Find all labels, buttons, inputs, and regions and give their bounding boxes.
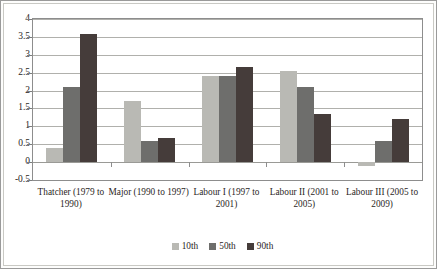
legend-label: 10th: [182, 242, 199, 251]
y-axis-tickmark: [27, 37, 32, 38]
legend-label: 50th: [219, 242, 236, 251]
x-axis-category-label: Labour II (2001 to 2005): [261, 187, 347, 210]
chart-figure: 43.532.521.510.50-0.5 Thatcher (1979 to …: [0, 0, 437, 269]
y-axis-tickmark: [27, 91, 32, 92]
legend-item[interactable]: 90th: [247, 242, 274, 251]
legend-swatch-icon: [247, 243, 254, 250]
y-axis-tickmark: [27, 144, 32, 145]
y-axis-tickmark: [27, 108, 32, 109]
x-axis-category-label: Labour I (1997 to 2001): [184, 187, 270, 210]
y-axis-tickmark: [27, 73, 32, 74]
legend-swatch-icon: [209, 243, 216, 250]
x-axis-category-label: Major (1990 to 1997): [106, 187, 192, 199]
x-axis-category-label: Labour III (2005 to 2009): [339, 187, 425, 210]
chart-figure-inner-border: 43.532.521.510.50-0.5 Thatcher (1979 to …: [3, 3, 434, 266]
chart-legend: 10th50th90th: [4, 240, 437, 254]
legend-label: 90th: [257, 242, 274, 251]
x-axis-category-labels: Thatcher (1979 to 1990)Major (1990 to 19…: [32, 187, 423, 229]
x-axis-category-label: Thatcher (1979 to 1990): [28, 187, 114, 210]
y-axis-tickmark: [27, 162, 32, 163]
legend-item[interactable]: 50th: [209, 242, 236, 251]
y-axis-tickmark: [27, 19, 32, 20]
y-axis-tickmark: [27, 126, 32, 127]
y-axis-tickmark: [27, 180, 32, 181]
legend-swatch-icon: [172, 243, 179, 250]
legend-item[interactable]: 10th: [172, 242, 199, 251]
y-axis-tickmark: [27, 55, 32, 56]
